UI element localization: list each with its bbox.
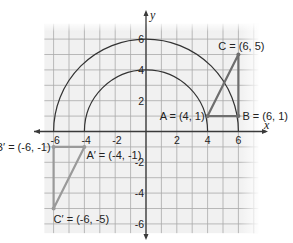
y-axis-label: y: [149, 8, 156, 22]
vertex-point: [206, 114, 210, 118]
grid-fade-right: [240, 24, 260, 233]
y-axis-arrow-down: [144, 234, 149, 240]
x-tick-label: -4: [81, 134, 90, 146]
grid-fade-top: [44, 22, 258, 32]
vertex-point: [236, 53, 240, 57]
vertex-label: B = (6, 1): [242, 110, 288, 122]
vertex-label: C′ = (-6, -5): [54, 213, 110, 225]
grid: [44, 22, 260, 233]
vertex-point: [52, 145, 56, 149]
y-tick-label: 4: [138, 64, 144, 76]
vertex-point: [236, 114, 240, 118]
vertex-point: [52, 207, 56, 211]
y-tick-label: 2: [138, 95, 144, 107]
vertex-label: B′ = (-6, -1): [0, 141, 51, 153]
vertex-label: C = (6, 5): [218, 40, 264, 52]
x-axis-arrow-left: [34, 129, 40, 134]
x-tick-label: -2: [112, 134, 121, 146]
y-axis-arrow-up: [144, 10, 149, 16]
y-tick-label: -6: [135, 218, 144, 230]
x-tick-label: 6: [235, 134, 241, 146]
y-tick-label: 6: [138, 33, 144, 45]
x-tick-label: 2: [174, 134, 180, 146]
coordinate-plane: xy-6-4-2246642-2-4-6 A = (4, 1)B = (6, 1…: [0, 0, 293, 243]
y-tick-label: -4: [135, 187, 144, 199]
x-tick-label: 4: [205, 134, 211, 146]
x-tick-label: -6: [51, 134, 60, 146]
grid-background: [44, 24, 258, 233]
vertex-label: A = (4, 1): [160, 110, 205, 122]
vertex-label: A′ = (-4, -1): [86, 149, 141, 161]
